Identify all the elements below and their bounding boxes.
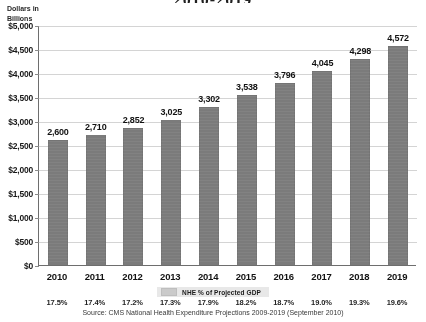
bar-cell: 3,025: [152, 25, 190, 265]
y-axis-tick-label: $3,500: [8, 93, 33, 103]
legend: NHE % of Projected GDP: [0, 287, 426, 297]
bar-value-label: 3,302: [198, 94, 220, 104]
gdp-percent-value: 17.9%: [189, 298, 227, 307]
x-axis-tick-label: 2013: [151, 271, 189, 282]
bar-value-label: 4,298: [350, 46, 372, 56]
x-axis-tick-label: 2012: [114, 271, 152, 282]
source-note: Source: CMS National Health Expenditure …: [0, 309, 426, 316]
bar: [199, 107, 219, 265]
bar-value-label: 4,045: [312, 58, 334, 68]
bar-value-label: 3,796: [274, 70, 296, 80]
bar: [237, 95, 257, 265]
x-axis-tick-label: 2018: [340, 271, 378, 282]
bar-cell: 3,538: [228, 25, 266, 265]
y-axis-tick: [35, 266, 39, 267]
bar: [86, 135, 106, 265]
gdp-percent-value: 18.2%: [227, 298, 265, 307]
gdp-percent-value: 18.7%: [265, 298, 303, 307]
chart-title: 2010-2019: [0, 0, 426, 3]
bar: [48, 140, 68, 265]
gdp-percent-value: 17.4%: [76, 298, 114, 307]
gdp-percent-value: 17.5%: [38, 298, 76, 307]
bar: [123, 128, 143, 265]
bar-cell: 4,572: [379, 25, 417, 265]
x-axis-tick-label: 2014: [189, 271, 227, 282]
bar-cell: 3,302: [190, 25, 228, 265]
y-axis-tick-label: $4,500: [8, 45, 33, 55]
y-axis-tick-label: $0: [24, 261, 33, 271]
bar: [312, 71, 332, 265]
x-axis-tick-label: 2016: [265, 271, 303, 282]
x-axis-tick-label: 2019: [378, 271, 416, 282]
bar-cell: 2,852: [115, 25, 153, 265]
legend-swatch-icon: [161, 288, 177, 296]
bar-value-label: 3,025: [161, 107, 183, 117]
y-axis-tick-label: $500: [15, 237, 33, 247]
y-axis-tick-label: $4,000: [8, 69, 33, 79]
x-axis-tick-label: 2011: [76, 271, 114, 282]
y-axis-tick-label: $1,000: [8, 213, 33, 223]
plot-area: $5,000$4,500$4,000$3,500$3,000$2,500$2,0…: [38, 26, 416, 266]
gdp-percent-value: 17.2%: [114, 298, 152, 307]
bar: [350, 59, 370, 265]
y-axis-tick-label: $2,500: [8, 141, 33, 151]
gdp-percent-value: 19.6%: [378, 298, 416, 307]
bar-cell: 2,600: [39, 25, 77, 265]
x-axis-labels: 2010201120122013201420152016201720182019: [38, 271, 416, 282]
legend-item-nhe-gdp: NHE % of Projected GDP: [157, 287, 269, 297]
gdp-percent-value: 19.0%: [303, 298, 341, 307]
x-axis-tick-label: 2017: [303, 271, 341, 282]
bar-value-label: 4,572: [387, 33, 409, 43]
legend-label: NHE % of Projected GDP: [182, 289, 261, 296]
bar-cell: 4,298: [341, 25, 379, 265]
y-axis-tick-label: $5,000: [8, 21, 33, 31]
gdp-percent-row: 17.5%17.4%17.2%17.3%17.9%18.2%18.7%19.0%…: [38, 298, 416, 307]
bar-value-label: 2,852: [123, 115, 145, 125]
gridline: [39, 266, 417, 267]
bar-cell: 3,796: [266, 25, 304, 265]
gdp-percent-value: 17.3%: [151, 298, 189, 307]
bar-value-label: 3,538: [236, 82, 258, 92]
bar: [275, 83, 295, 265]
y-axis-caption-line1: Dollars in: [7, 4, 39, 14]
bars-group: 2,6002,7102,8523,0253,3023,5383,7964,045…: [39, 25, 417, 265]
x-axis-tick-label: 2010: [38, 271, 76, 282]
bar-value-label: 2,710: [85, 122, 107, 132]
gdp-percent-value: 19.3%: [340, 298, 378, 307]
x-axis-tick-label: 2015: [227, 271, 265, 282]
y-axis-tick-label: $1,500: [8, 189, 33, 199]
chart-figure: 2010-2019 Dollars in Billions $5,000$4,5…: [0, 0, 426, 322]
bar: [161, 120, 181, 265]
bar: [388, 46, 408, 265]
y-axis-tick-label: $3,000: [8, 117, 33, 127]
bar-cell: 2,710: [77, 25, 115, 265]
bar-value-label: 2,600: [47, 127, 69, 137]
y-axis-tick-label: $2,000: [8, 165, 33, 175]
bar-cell: 4,045: [304, 25, 342, 265]
